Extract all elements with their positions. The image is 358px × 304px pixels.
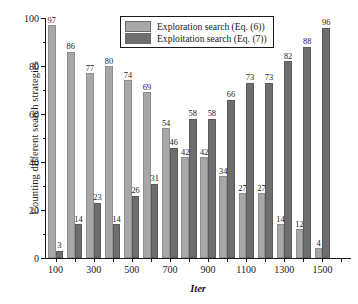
bar: 77 — [86, 73, 94, 258]
bar-value-label: 14 — [112, 216, 120, 224]
bar-value-label: 58 — [189, 110, 197, 118]
y-axis-title: Counting different search strategies — [29, 18, 40, 258]
bar: 23 — [94, 203, 102, 258]
bar-value-label: 73 — [265, 74, 273, 82]
y-tick-label: 80 — [29, 61, 39, 72]
bar-value-label: 23 — [93, 194, 101, 202]
y-tick-label: 0 — [34, 253, 39, 264]
y-tick-major — [41, 66, 46, 67]
y-tick-label: 40 — [29, 157, 39, 168]
x-tick — [265, 258, 266, 262]
x-tick — [284, 258, 285, 262]
x-tick-label: 1500 — [312, 264, 332, 275]
bar-value-label: 46 — [170, 139, 178, 147]
bar: 80 — [105, 66, 113, 258]
bar: 42 — [181, 157, 189, 258]
bar-value-label: 69 — [143, 84, 151, 92]
y-tick-minor — [43, 138, 46, 139]
y-tick-label: 20 — [29, 205, 39, 216]
bar: 46 — [170, 148, 178, 258]
y-tick-label: 100 — [24, 13, 39, 24]
chart-figure: Counting different search strategies 020… — [0, 0, 358, 304]
x-tick — [170, 258, 171, 262]
bar: 96 — [322, 28, 330, 258]
bar-value-label: 4 — [317, 240, 321, 248]
y-tick-major — [41, 258, 46, 259]
bar: 42 — [200, 157, 208, 258]
bar: 58 — [189, 119, 197, 258]
x-tick — [113, 258, 114, 262]
legend-item-exploitation: Exploitation search (Eq. (7)) — [125, 32, 267, 44]
x-tick — [75, 258, 76, 262]
x-tick — [303, 258, 304, 262]
bar-value-label: 66 — [227, 91, 235, 99]
bar: 73 — [246, 83, 254, 258]
x-tick-label: 500 — [124, 264, 139, 275]
bar-value-label: 3 — [57, 242, 61, 250]
legend: Exploration search (Eq. (6)) Exploitatio… — [120, 16, 274, 48]
x-tick — [246, 258, 247, 262]
bar-value-label: 88 — [303, 38, 311, 46]
x-tick-label: 1300 — [274, 264, 294, 275]
bar: 73 — [265, 83, 273, 258]
bar-value-label: 31 — [150, 175, 158, 183]
x-tick-label: 700 — [162, 264, 177, 275]
bar-value-label: 82 — [284, 53, 292, 61]
y-tick-major — [41, 162, 46, 163]
x-tick-label: 300 — [86, 264, 101, 275]
x-tick — [56, 258, 57, 262]
x-tick — [208, 258, 209, 262]
legend-label-exploitation: Exploitation search (Eq. (7)) — [157, 33, 267, 44]
bar: 14 — [75, 224, 83, 258]
y-tick-major — [41, 18, 46, 19]
bar-value-label: 80 — [105, 58, 113, 66]
x-tick — [132, 258, 133, 262]
x-tick — [189, 258, 190, 262]
bar: 54 — [162, 128, 170, 258]
x-tick — [322, 258, 323, 262]
bar: 31 — [151, 184, 159, 258]
bar-value-label: 73 — [246, 74, 254, 82]
legend-swatch-exploitation — [125, 33, 151, 44]
y-tick-minor — [43, 42, 46, 43]
bar-value-label: 14 — [74, 216, 82, 224]
bar: 27 — [239, 193, 247, 258]
y-tick-label: 60 — [29, 109, 39, 120]
x-tick — [94, 258, 95, 262]
x-axis-title: Iter — [45, 283, 351, 294]
legend-label-exploration: Exploration search (Eq. (6)) — [157, 21, 265, 32]
bar-value-label: 96 — [322, 19, 330, 27]
bar: 26 — [132, 196, 140, 258]
bar: 74 — [124, 80, 132, 258]
bar: 14 — [277, 224, 285, 258]
x-tick — [341, 258, 342, 262]
x-tick-label: 100 — [48, 264, 63, 275]
x-tick — [151, 258, 152, 262]
bar: 82 — [284, 61, 292, 258]
bar: 27 — [258, 193, 266, 258]
bar-value-label: 74 — [124, 72, 132, 80]
x-tick-label: 900 — [201, 264, 216, 275]
bar: 12 — [296, 229, 304, 258]
bar: 97 — [48, 25, 56, 258]
bar-value-label: 77 — [86, 65, 94, 73]
plot-area: 020406080100 100300500700900110013001500… — [45, 18, 351, 259]
y-tick-major — [41, 210, 46, 211]
y-tick-major — [41, 114, 46, 115]
bar-value-label: 26 — [131, 187, 139, 195]
bar: 66 — [227, 100, 235, 258]
bar: 34 — [219, 176, 227, 258]
bar-value-label: 86 — [67, 43, 75, 51]
bar: 4 — [315, 248, 323, 258]
x-tick — [227, 258, 228, 262]
bar: 3 — [56, 251, 64, 258]
x-tick-label: 1100 — [236, 264, 256, 275]
bar: 14 — [113, 224, 121, 258]
y-tick-minor — [43, 234, 46, 235]
y-tick-minor — [43, 90, 46, 91]
y-tick-minor — [43, 186, 46, 187]
bar: 58 — [208, 119, 216, 258]
bar-value-label: 58 — [208, 110, 216, 118]
bar: 86 — [67, 52, 75, 258]
bar: 88 — [303, 47, 311, 258]
